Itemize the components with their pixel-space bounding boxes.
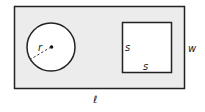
rectangle-length-label: ℓ: [93, 94, 97, 105]
rectangle-width-label: w: [188, 43, 197, 54]
square-side-label-left: s: [125, 42, 130, 53]
square-side-label-bottom: s: [143, 61, 148, 72]
geometry-diagram: r s s w ℓ: [0, 0, 205, 112]
